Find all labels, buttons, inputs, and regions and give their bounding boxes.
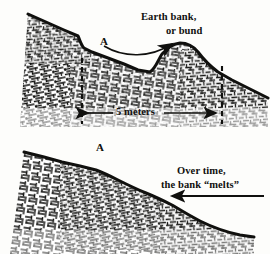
dimension-label-5-meters: 5 meters xyxy=(116,106,155,118)
bund-callout-line2: or bund xyxy=(166,25,202,37)
bottom-panel-terrain xyxy=(0,140,270,254)
bund-callout-line1: Earth bank, xyxy=(141,11,196,23)
top-point-label-a: A xyxy=(100,35,108,48)
diagram-artwork xyxy=(0,0,270,254)
melts-callout-line1: Over time, xyxy=(177,165,226,177)
bottom-point-label-a: A xyxy=(96,141,104,154)
melts-callout-line2: the bank “melts” xyxy=(161,179,239,191)
earth-bank-diagram: Earth bank, or bund A 5 meters A Over ti… xyxy=(0,0,270,254)
